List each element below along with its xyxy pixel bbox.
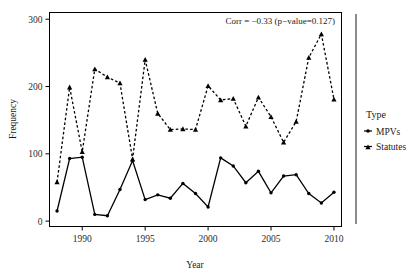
x-tick-label: 2005 xyxy=(262,234,281,244)
data-point xyxy=(244,181,247,184)
y-tick-label: 0 xyxy=(38,217,43,227)
data-point xyxy=(332,190,335,193)
chart-container: 0100200300 19901995200020052010 Corr = −… xyxy=(0,0,419,278)
legend-title: Type xyxy=(366,109,386,120)
data-point xyxy=(181,182,184,185)
data-point xyxy=(307,192,310,195)
data-point xyxy=(118,188,121,191)
data-point xyxy=(206,205,209,208)
legend-label-mpvs[interactable]: MPVs xyxy=(376,127,401,137)
y-axis-title: Frequency xyxy=(8,99,18,139)
data-point xyxy=(156,193,159,196)
y-tick-label: 300 xyxy=(28,15,43,25)
data-point xyxy=(81,155,84,158)
y-tick-label: 200 xyxy=(28,82,43,92)
data-point xyxy=(106,214,109,217)
x-tick-label: 1995 xyxy=(136,234,155,244)
data-point xyxy=(143,198,146,201)
data-point xyxy=(55,209,58,212)
data-point xyxy=(320,201,323,204)
data-point xyxy=(93,213,96,216)
data-point xyxy=(194,192,197,195)
data-point xyxy=(294,173,297,176)
data-point xyxy=(169,197,172,200)
data-point xyxy=(257,170,260,173)
data-point xyxy=(68,157,71,160)
data-point xyxy=(219,156,222,159)
x-tick-label: 2010 xyxy=(324,234,343,244)
y-tick-label: 100 xyxy=(28,149,43,159)
legend-label-statutes[interactable]: Statutes xyxy=(376,142,406,152)
frequency-by-year-line-chart: 0100200300 19901995200020052010 Corr = −… xyxy=(0,0,419,278)
x-tick-label: 1990 xyxy=(73,234,92,244)
x-axis-title: Year xyxy=(186,260,204,270)
data-point xyxy=(269,191,272,194)
x-tick-label: 2000 xyxy=(199,234,218,244)
data-point xyxy=(232,164,235,167)
data-point xyxy=(282,174,285,177)
correlation-annotation: Corr = −0.33 (p−value=0.127) xyxy=(225,16,335,26)
